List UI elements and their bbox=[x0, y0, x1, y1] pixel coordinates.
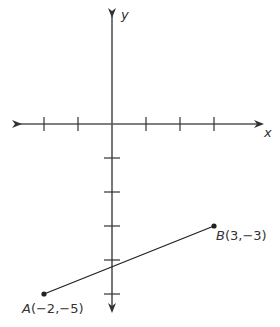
point-a-name: A bbox=[21, 301, 31, 316]
point-a-label: A(−2,−5) bbox=[21, 301, 84, 316]
x-axis-label: x bbox=[263, 125, 272, 140]
point-b-name: B bbox=[216, 228, 225, 243]
plane-svg: x y A(−2,−5) B(3,−3) bbox=[0, 0, 280, 327]
point-a-coords: (−2,−5) bbox=[31, 301, 84, 316]
coordinate-plane-diagram: x y A(−2,−5) B(3,−3) bbox=[0, 0, 280, 327]
point-b-label: B(3,−3) bbox=[216, 228, 267, 243]
point-a bbox=[41, 291, 46, 296]
y-axis-label: y bbox=[120, 7, 129, 22]
point-b-coords: (3,−3) bbox=[225, 228, 267, 243]
segment-ab bbox=[44, 226, 214, 294]
